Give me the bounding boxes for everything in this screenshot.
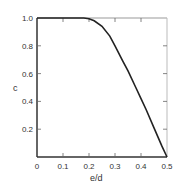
y-axis-label: c bbox=[13, 83, 18, 93]
x-tick-label: 0.4 bbox=[135, 162, 147, 171]
x-tick-label: 0.5 bbox=[161, 162, 173, 171]
y-tick-label: 0.6 bbox=[22, 70, 34, 79]
chart-canvas: 00.10.20.30.40.50.20.40.60.81.0 c e/d bbox=[0, 0, 184, 193]
data-line bbox=[37, 18, 167, 157]
x-axis-label: e/d bbox=[90, 173, 103, 183]
x-tick-label: 0 bbox=[35, 162, 40, 171]
x-tick-label: 0.3 bbox=[109, 162, 121, 171]
tick-labels: 00.10.20.30.40.50.20.40.60.81.0 bbox=[22, 14, 173, 171]
ticks bbox=[37, 18, 167, 157]
x-tick-label: 0.1 bbox=[57, 162, 69, 171]
y-tick-label: 0.8 bbox=[22, 42, 34, 51]
y-tick-label: 0.4 bbox=[22, 97, 34, 106]
x-tick-label: 0.2 bbox=[83, 162, 95, 171]
y-tick-label: 1.0 bbox=[22, 14, 34, 23]
y-tick-label: 0.2 bbox=[22, 125, 34, 134]
